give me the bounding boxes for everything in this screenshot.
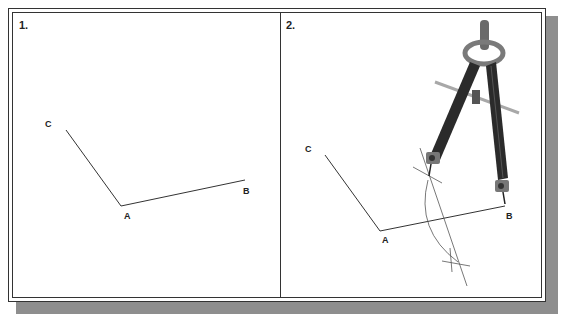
- figure-drawing: C A B C A B: [0, 0, 562, 319]
- construction-arcs: [413, 148, 470, 286]
- panel-1-point-c: C: [45, 119, 52, 129]
- panel-1-point-b: B: [243, 186, 250, 196]
- panel-1-angle: [66, 130, 245, 206]
- panel-2-point-b: B: [506, 211, 513, 221]
- panel-2-point-c: C: [305, 144, 312, 154]
- compass-icon: [426, 20, 519, 204]
- panel-1-point-a: A: [124, 211, 131, 221]
- panel-2-angle: [325, 155, 505, 231]
- panel-2-point-a: A: [382, 235, 389, 245]
